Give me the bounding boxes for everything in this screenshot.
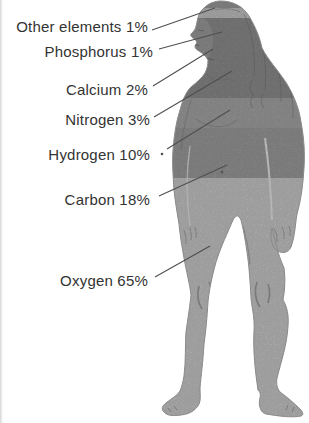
human-body-figure: [150, 0, 309, 423]
label-nitrogen: Nitrogen 3%: [65, 112, 150, 128]
label-calcium: Calcium 2%: [66, 82, 148, 98]
label-hydrogen: Hydrogen 10%: [48, 147, 150, 163]
scan-grain: [150, 0, 309, 423]
figure-canvas: Other elements 1% Phosphorus 1% Calcium …: [0, 0, 309, 423]
label-other-elements: Other elements 1%: [16, 19, 148, 35]
scan-edge-shadow: [0, 0, 3, 423]
label-carbon: Carbon 18%: [65, 192, 150, 208]
hydrogen-leader-dot: [161, 153, 164, 156]
label-phosphorus: Phosphorus 1%: [44, 44, 153, 60]
label-oxygen: Oxygen 65%: [60, 273, 148, 289]
body-composition-diagram: [0, 0, 309, 423]
